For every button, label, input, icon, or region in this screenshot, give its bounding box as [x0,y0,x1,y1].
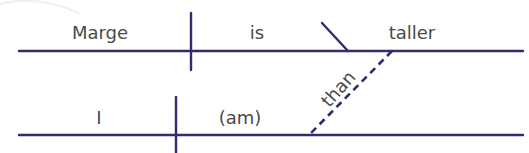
subordinate-subject: I [96,107,101,128]
main-verb: is [250,22,264,43]
main-clause: Marge is taller [19,13,523,70]
sentence-diagram: Marge is taller than I (am) [0,0,529,153]
predicate-adjective: taller [389,22,436,43]
subordinate-verb: (am) [219,107,262,128]
subordinate-clause: I (am) [19,97,523,153]
connector: than [309,51,392,135]
decorative-arc [0,1,80,14]
main-subject: Marge [72,22,128,43]
predicate-adjective-divider [322,23,348,51]
